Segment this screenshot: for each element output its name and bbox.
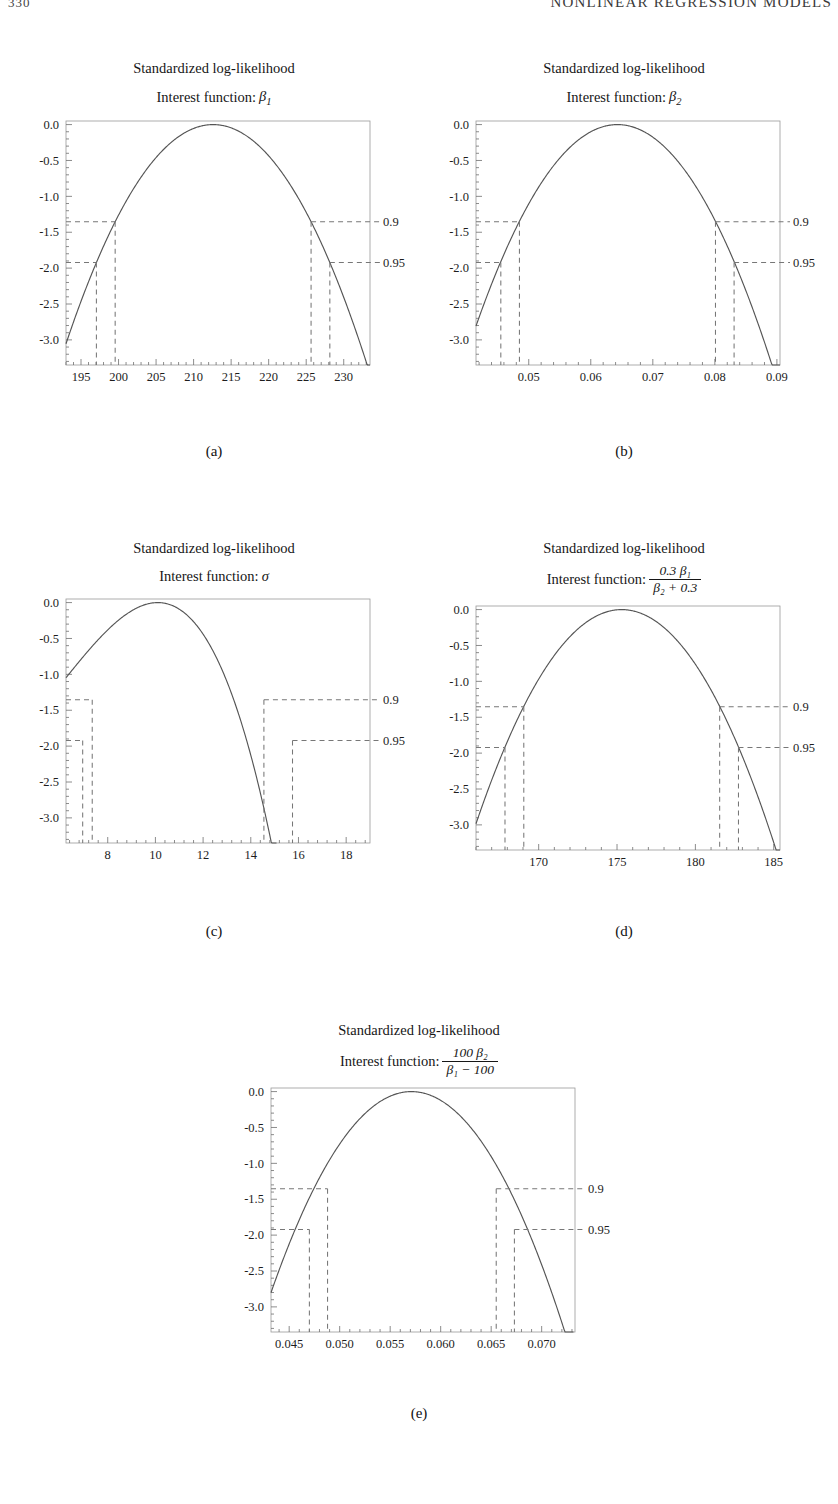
y-tick-label: 0.0 [248,1085,264,1099]
chart-title-a: Standardized log-likelihood [14,58,414,80]
x-tick-label: 0.055 [376,1337,404,1351]
plot-area-a: 1952002052102152202252300.0-0.5-1.0-1.5-… [14,113,414,413]
y-tick-label: -3.0 [244,1300,264,1314]
confidence-level-label: 0.9 [383,215,399,229]
y-tick-label: 0.0 [43,596,59,610]
y-tick-label: -0.5 [39,631,59,645]
y-tick-label: -1.0 [449,189,469,203]
x-tick-label: 0.060 [427,1337,455,1351]
x-tick-label: 200 [109,370,128,384]
y-tick-label: -1.0 [39,667,59,681]
plot-area-d: 1701751801850.0-0.5-1.0-1.5-2.0-2.5-3.00… [424,598,824,898]
fraction-numerator-d: 0.3 β₁ [655,563,695,578]
x-tick-label: 0.065 [477,1337,505,1351]
chart-subtitle-c: Interest function: σ [14,568,414,585]
x-tick-label: 210 [184,370,203,384]
y-tick-label: -1.5 [244,1192,264,1206]
chart-svg-d: 1701751801850.0-0.5-1.0-1.5-2.0-2.5-3.00… [424,598,824,898]
caption-a: (a) [14,443,414,460]
interest-function-prefix-a: Interest function: [157,89,256,106]
y-tick-label: -0.5 [39,153,59,167]
x-tick-label: 170 [529,855,548,869]
x-tick-label: 180 [686,855,705,869]
loglikelihood-curve [271,1092,573,1332]
page-number: 330 [8,0,31,11]
x-tick-label: 0.08 [704,370,726,384]
fraction-denominator-d: β₂ + 0.3 [649,579,701,595]
confidence-level-label: 0.9 [383,693,399,707]
chart-subtitle-d: Interest function: 0.3 β₁ β₂ + 0.3 [424,564,824,596]
y-tick-label: -2.5 [39,297,59,311]
y-tick-label: -1.5 [39,703,59,717]
x-tick-label: 8 [105,848,111,862]
interest-function-prefix-d: Interest function: [547,571,646,588]
chart-subtitle-a: Interest function: β1 [14,88,414,107]
confidence-level-label: 0.95 [383,733,405,747]
confidence-level-label: 0.95 [588,1223,610,1237]
x-tick-label: 215 [222,370,241,384]
y-tick-label: -1.5 [449,225,469,239]
x-tick-label: 205 [147,370,166,384]
y-tick-label: -2.0 [39,739,59,753]
chart-panel-b: Standardized log-likelihood Interest fun… [424,58,824,413]
plot-area-b: 0.050.060.070.080.090.0-0.5-1.0-1.5-2.0-… [424,113,824,413]
x-tick-label: 0.06 [580,370,602,384]
y-tick-label: -2.0 [449,746,469,760]
interest-function-fraction-d: 0.3 β₁ β₂ + 0.3 [649,563,701,595]
y-tick-label: -1.5 [39,225,59,239]
x-tick-label: 14 [245,848,258,862]
chart-panel-a: Standardized log-likelihood Interest fun… [14,58,414,413]
caption-e: (e) [219,1405,619,1422]
interest-function-symbol-c: σ [262,568,269,585]
interest-function-symbol-a: β1 [259,88,271,107]
x-tick-label: 0.045 [275,1337,303,1351]
x-tick-label: 185 [764,855,783,869]
x-tick-label: 0.05 [518,370,540,384]
chart-panel-e: Standardized log-likelihood Interest fun… [219,1020,619,1380]
confidence-level-label: 0.95 [793,255,815,269]
plot-frame [66,599,370,843]
chart-subtitle-e: Interest function: 100 β₂ β₁ − 100 [219,1046,619,1078]
interest-function-prefix-e: Interest function: [340,1053,439,1070]
y-tick-label: -2.5 [39,775,59,789]
y-tick-label: -3.0 [449,333,469,347]
y-tick-label: -3.0 [39,333,59,347]
y-tick-label: 0.0 [453,117,469,131]
y-tick-label: -1.0 [449,675,469,689]
loglikelihood-curve [66,602,277,842]
y-tick-label: -2.0 [244,1228,264,1242]
y-tick-label: -2.5 [449,297,469,311]
x-tick-label: 18 [340,848,353,862]
interest-function-prefix-b: Interest function: [567,89,666,106]
x-tick-label: 195 [72,370,91,384]
x-tick-label: 16 [292,848,305,862]
x-tick-label: 0.07 [642,370,664,384]
x-tick-label: 0.070 [528,1337,556,1351]
y-tick-label: -2.5 [244,1264,264,1278]
x-tick-label: 0.09 [766,370,788,384]
x-tick-label: 10 [149,848,162,862]
chart-svg-c: 810121416180.0-0.5-1.0-1.5-2.0-2.5-3.00.… [14,591,414,891]
chart-title-c: Standardized log-likelihood [14,538,414,560]
y-tick-label: -0.5 [244,1121,264,1135]
chart-title-e: Standardized log-likelihood [219,1020,619,1042]
loglikelihood-curve [66,124,370,364]
y-tick-label: -1.5 [449,710,469,724]
y-tick-label: -2.5 [449,782,469,796]
chart-svg-e: 0.0450.0500.0550.0600.0650.0700.0-0.5-1.… [219,1080,619,1380]
plot-area-e: 0.0450.0500.0550.0600.0650.0700.0-0.5-1.… [219,1080,619,1380]
running-header-title: NONLINEAR REGRESSION MODELS [550,0,832,11]
x-tick-label: 175 [608,855,627,869]
y-tick-label: -3.0 [39,811,59,825]
y-tick-label: -2.0 [449,261,469,275]
y-tick-label: -1.0 [39,189,59,203]
x-tick-label: 225 [297,370,316,384]
x-tick-label: 220 [259,370,278,384]
confidence-level-label: 0.9 [588,1182,604,1196]
chart-svg-b: 0.050.060.070.080.090.0-0.5-1.0-1.5-2.0-… [424,113,824,413]
page-header: 330 NONLINEAR REGRESSION MODELS [0,0,838,14]
confidence-level-label: 0.9 [793,215,809,229]
fraction-denominator-e: β₁ − 100 [442,1061,498,1077]
confidence-level-label: 0.95 [383,255,405,269]
x-tick-label: 0.050 [326,1337,354,1351]
